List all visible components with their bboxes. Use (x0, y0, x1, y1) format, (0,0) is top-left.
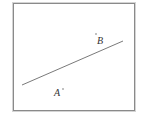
point-b: B (95, 33, 103, 46)
point-b-label: B (97, 35, 103, 46)
line-segment (22, 41, 123, 85)
point-a: A (53, 87, 64, 98)
point-a-dot (62, 88, 63, 89)
point-a-label: A (53, 87, 61, 98)
geometry-diagram: B A (0, 0, 143, 120)
